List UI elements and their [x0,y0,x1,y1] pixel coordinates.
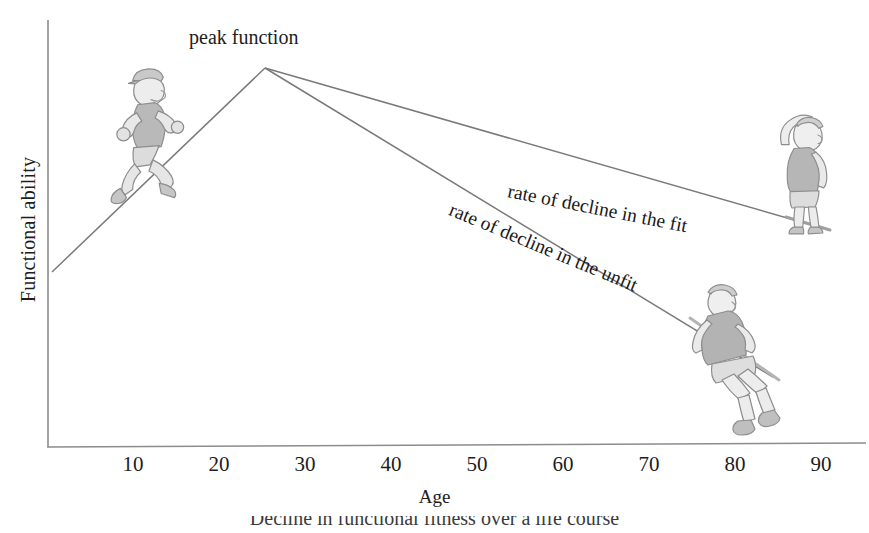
y-axis-label: Functional ability [17,110,40,350]
x-tick-label-60: 60 [541,452,585,477]
annotation-peak-function: peak function [189,26,298,49]
x-tick-label-20: 20 [197,452,241,477]
x-tick-label-30: 30 [283,452,327,477]
x-tick-label-10: 10 [111,452,155,477]
figure-caption-text: Decline in functional fitness over a lif… [0,516,869,530]
x-tick-label-70: 70 [627,452,671,477]
x-axis [47,443,866,447]
sitter-figure [692,285,780,435]
x-tick-label-80: 80 [713,452,757,477]
x-tick-label-50: 50 [455,452,499,477]
x-axis-label: Age [0,486,869,508]
runner-figure [111,69,184,204]
figure-caption-clipped: Decline in functional fitness over a lif… [0,516,869,533]
x-tick-label-40: 40 [369,452,413,477]
chart-figure: Functional ability Age 10 20 30 40 50 60… [0,0,869,533]
x-tick-label-90: 90 [799,452,843,477]
